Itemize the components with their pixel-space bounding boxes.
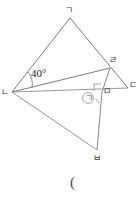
segment-g-n: [12, 18, 70, 92]
segment-m-b: [97, 92, 102, 150]
vertex-label-b: ㅂ: [93, 154, 101, 163]
vertex-label-m: ㅁ: [103, 87, 111, 96]
vertex-label-g: ㄱ: [65, 6, 73, 15]
circled-angle-label: ㄱ: [85, 94, 93, 103]
segment-n-r: [12, 68, 110, 92]
segment-g-d: [70, 18, 128, 88]
footer-paren-mark: (: [70, 175, 75, 190]
vertex-label-n: ㄴ: [1, 88, 9, 97]
angle-label-40deg: 40°: [31, 68, 46, 79]
vertex-label-r: ㄹ: [109, 56, 117, 65]
angle-arc-unknown: [96, 99, 99, 103]
geometry-figure: [0, 0, 140, 197]
right-angle-marker: [94, 84, 101, 91]
vertex-label-d: ㄷ: [129, 81, 137, 90]
